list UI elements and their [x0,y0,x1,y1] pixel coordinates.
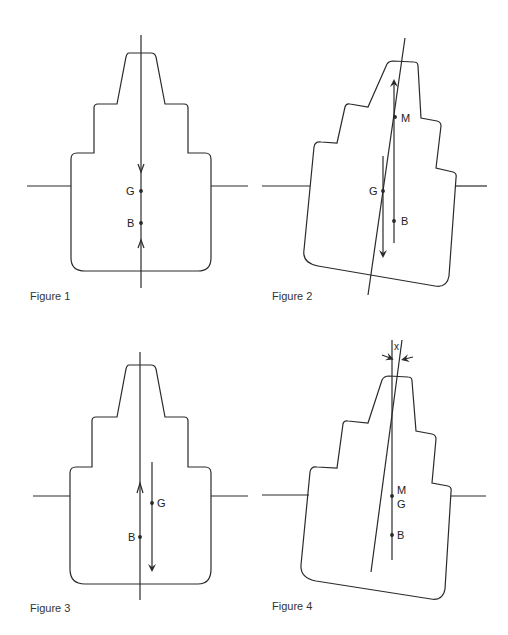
label-g: G [369,185,378,197]
label-g: G [157,497,166,509]
figure-1 [27,35,248,288]
figure-4-caption: Figure 4 [272,600,312,612]
label-b: B [401,215,408,227]
label-m: M [401,112,410,124]
label-g: G [397,498,406,510]
figure-4 [262,340,486,599]
label-b: B [397,529,404,541]
figure-2 [262,38,487,295]
figure-1-caption: Figure 1 [30,290,70,302]
label-x: x [394,341,399,352]
figure-2-caption: Figure 2 [272,290,312,302]
right-angle-arrow [405,357,413,359]
figure-3-caption: Figure 3 [30,602,70,614]
left-angle-arrow [382,355,390,358]
label-g: G [126,185,135,197]
ship-outline [301,376,451,599]
label-b: B [128,531,135,543]
tilted-centreline [368,38,405,295]
stability-diagrams: G B G B M G B M G B [0,0,508,635]
figure-3 [33,352,248,600]
label-b: B [127,217,134,229]
label-m: M [397,484,406,496]
ship-outline [304,61,456,286]
